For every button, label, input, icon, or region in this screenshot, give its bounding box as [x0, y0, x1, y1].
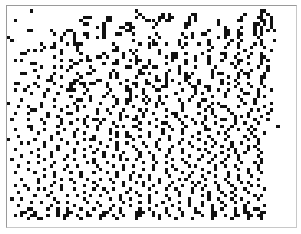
live-cell[interactable] [109, 112, 112, 115]
live-cell[interactable] [79, 217, 82, 220]
live-cell[interactable] [92, 207, 95, 210]
live-cell[interactable] [43, 145, 46, 148]
live-cell[interactable] [102, 118, 105, 121]
live-cell[interactable] [250, 108, 253, 111]
live-cell[interactable] [99, 55, 102, 58]
live-cell[interactable] [86, 125, 89, 128]
live-cell[interactable] [184, 42, 187, 45]
live-cell[interactable] [53, 181, 56, 184]
live-cell[interactable] [234, 121, 237, 124]
live-cell[interactable] [23, 52, 26, 55]
live-cell[interactable] [86, 115, 89, 118]
live-cell[interactable] [135, 95, 138, 98]
live-cell[interactable] [224, 118, 227, 121]
live-cell[interactable] [257, 141, 260, 144]
live-cell[interactable] [43, 128, 46, 131]
live-cell[interactable] [161, 131, 164, 134]
live-cell[interactable] [23, 72, 26, 75]
live-cell[interactable] [152, 26, 155, 29]
live-cell[interactable] [30, 151, 33, 154]
live-cell[interactable] [99, 168, 102, 171]
live-cell[interactable] [99, 217, 102, 220]
live-cell[interactable] [53, 65, 56, 68]
live-cell[interactable] [260, 217, 263, 220]
live-cell[interactable] [191, 145, 194, 148]
live-cell[interactable] [201, 204, 204, 207]
live-cell[interactable] [201, 187, 204, 190]
live-cell[interactable] [237, 105, 240, 108]
live-cell[interactable] [257, 184, 260, 187]
live-cell[interactable] [214, 214, 217, 217]
live-cell[interactable] [129, 98, 132, 101]
live-cell[interactable] [250, 85, 253, 88]
live-cell[interactable] [227, 75, 230, 78]
live-cell[interactable] [125, 141, 128, 144]
live-cell[interactable] [53, 161, 56, 164]
live-cell[interactable] [60, 75, 63, 78]
live-cell[interactable] [191, 191, 194, 194]
live-cell[interactable] [201, 168, 204, 171]
live-cell[interactable] [138, 128, 141, 131]
live-cell[interactable] [112, 204, 115, 207]
live-cell[interactable] [243, 102, 246, 105]
live-cell[interactable] [270, 102, 273, 105]
live-cell[interactable] [230, 39, 233, 42]
live-cell[interactable] [237, 168, 240, 171]
live-cell[interactable] [89, 214, 92, 217]
live-cell[interactable] [194, 121, 197, 124]
live-cell[interactable] [224, 158, 227, 161]
live-cell[interactable] [155, 65, 158, 68]
live-cell[interactable] [33, 69, 36, 72]
live-cell[interactable] [220, 145, 223, 148]
live-cell[interactable] [207, 49, 210, 52]
live-cell[interactable] [73, 88, 76, 91]
live-cell[interactable] [204, 108, 207, 111]
live-cell[interactable] [207, 128, 210, 131]
live-cell[interactable] [115, 217, 118, 220]
live-cell[interactable] [155, 125, 158, 128]
live-cell[interactable] [227, 135, 230, 138]
live-cell[interactable] [220, 72, 223, 75]
live-cell[interactable] [20, 154, 23, 157]
live-cell[interactable] [132, 39, 135, 42]
live-cell[interactable] [240, 161, 243, 164]
live-cell[interactable] [50, 184, 53, 187]
live-cell[interactable] [178, 141, 181, 144]
live-cell[interactable] [227, 42, 230, 45]
live-cell[interactable] [152, 168, 155, 171]
live-cell[interactable] [158, 138, 161, 141]
live-cell[interactable] [165, 154, 168, 157]
live-cell[interactable] [125, 79, 128, 82]
live-cell[interactable] [66, 214, 69, 217]
live-cell[interactable] [115, 148, 118, 151]
cell-layer[interactable] [7, 6, 296, 227]
live-cell[interactable] [148, 135, 151, 138]
live-cell[interactable] [43, 46, 46, 49]
live-cell[interactable] [129, 65, 132, 68]
live-cell[interactable] [181, 214, 184, 217]
live-cell[interactable] [86, 88, 89, 91]
live-cell[interactable] [224, 214, 227, 217]
live-cell[interactable] [14, 214, 17, 217]
live-cell[interactable] [243, 13, 246, 16]
live-cell[interactable] [263, 46, 266, 49]
live-cell[interactable] [263, 75, 266, 78]
live-cell[interactable] [66, 105, 69, 108]
live-cell[interactable] [214, 115, 217, 118]
live-cell[interactable] [83, 131, 86, 134]
live-cell[interactable] [240, 197, 243, 200]
live-cell[interactable] [20, 197, 23, 200]
live-cell[interactable] [161, 102, 164, 105]
live-cell[interactable] [214, 168, 217, 171]
live-cell[interactable] [207, 88, 210, 91]
live-cell[interactable] [17, 204, 20, 207]
live-cell[interactable] [138, 174, 141, 177]
live-cell[interactable] [191, 217, 194, 220]
live-cell[interactable] [99, 194, 102, 197]
live-cell[interactable] [217, 36, 220, 39]
live-cell[interactable] [66, 42, 69, 45]
live-cell[interactable] [191, 171, 194, 174]
live-cell[interactable] [224, 55, 227, 58]
live-cell[interactable] [86, 201, 89, 204]
live-cell[interactable] [247, 75, 250, 78]
